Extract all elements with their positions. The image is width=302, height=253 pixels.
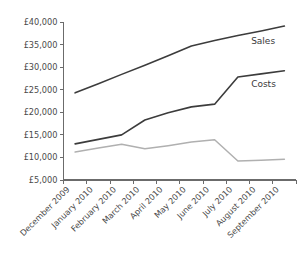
line-chart: £5,000£10,000£15,000£20,000£25,000£30,00… <box>0 0 302 253</box>
x-axis-labels: December 2009January 2010February 2010Ma… <box>18 184 281 240</box>
chart-canvas: £5,000£10,000£15,000£20,000£25,000£30,00… <box>0 0 302 253</box>
y-tick-label: £25,000 <box>24 85 58 95</box>
data-series-group <box>75 26 284 161</box>
y-axis-labels: £5,000£10,000£15,000£20,000£25,000£30,00… <box>24 17 58 185</box>
y-tick-label: £30,000 <box>24 62 58 72</box>
y-tick-label: £40,000 <box>24 17 58 27</box>
series-label-sales: Sales <box>251 36 275 46</box>
series-line-secondary <box>75 140 284 161</box>
y-tick-label: £5,000 <box>29 175 58 185</box>
y-tick-label: £35,000 <box>24 40 58 50</box>
series-label-costs: Costs <box>251 79 276 89</box>
y-tick-label: £15,000 <box>24 130 58 140</box>
y-tick-label: £20,000 <box>24 107 58 117</box>
y-tick-label: £10,000 <box>24 152 58 162</box>
